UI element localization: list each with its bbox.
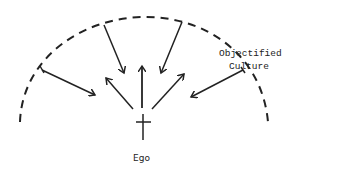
inward-arrow-left — [42, 70, 95, 95]
inward-arrow-top-left — [104, 25, 124, 73]
diagram-canvas — [0, 0, 338, 169]
inward-arrow-right — [191, 70, 243, 97]
ego-cross-icon — [136, 114, 151, 140]
inward-arrow-top-right — [161, 22, 182, 73]
outward-arrow-left — [106, 78, 133, 109]
outward-arrow-right — [152, 74, 184, 109]
outward-arrows — [106, 66, 184, 109]
culture-label: Culture — [229, 61, 269, 73]
ego-label: Ego — [133, 152, 150, 164]
objectified-label: Objectified — [219, 48, 282, 60]
tick-left — [40, 66, 44, 73]
